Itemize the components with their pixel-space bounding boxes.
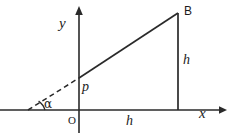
x-axis-arrowhead	[219, 106, 227, 114]
figure-canvas	[0, 0, 229, 140]
x-axis	[0, 106, 227, 114]
origin-label: O	[68, 115, 76, 126]
y-axis	[75, 6, 83, 133]
horizontal-height-label: h	[126, 114, 133, 128]
x-axis-label: x	[199, 106, 206, 121]
vertical-height-label: h	[183, 53, 190, 67]
geometry-figure: y x O p α B h h	[0, 0, 229, 140]
angle-alpha-label: α	[44, 98, 52, 110]
y-axis-arrowhead	[75, 6, 83, 15]
point-b-label: B	[184, 5, 192, 17]
hypotenuse-line	[79, 13, 178, 78]
dashed-ray-extension	[28, 78, 79, 110]
intercept-label: p	[82, 80, 89, 94]
y-axis-label: y	[59, 16, 66, 31]
